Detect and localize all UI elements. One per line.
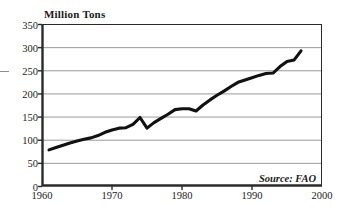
x-tick-label: 1970 <box>102 190 123 201</box>
plot-area <box>42 24 322 186</box>
plot-frame <box>42 24 322 186</box>
x-tick-label: 1960 <box>32 190 53 201</box>
y-tick-label: 100 <box>4 135 38 146</box>
y-tick-label: 200 <box>4 88 38 99</box>
y-tick-label: 300 <box>4 42 38 53</box>
x-tick-label: 1980 <box>172 190 193 201</box>
source-credit: Source: FAO <box>259 173 316 184</box>
y-tick-label: 150 <box>4 112 38 123</box>
chart-figure: Million Tons 050100150200250300350 19601… <box>0 0 342 222</box>
gridlines <box>42 25 322 164</box>
y-tick-label: 350 <box>4 19 38 30</box>
x-tick-label: 2000 <box>312 190 333 201</box>
y-tick-label: 50 <box>4 158 38 169</box>
data-series-line <box>49 51 301 150</box>
y-tick-label: 250 <box>4 65 38 76</box>
x-axis-tick-labels: 19601970198019902000 <box>0 190 342 212</box>
y-axis-tick-labels: 050100150200250300350 <box>0 0 38 222</box>
plot-svg <box>42 24 322 186</box>
y-axis-title: Million Tons <box>44 8 105 20</box>
x-tick-label: 1990 <box>242 190 263 201</box>
